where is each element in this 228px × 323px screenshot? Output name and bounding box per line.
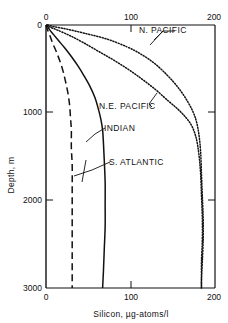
top-xtick-label-200: 200 — [207, 12, 221, 22]
series-line-s-atlantic — [46, 25, 72, 288]
series-label-n-pacific: N. PACIFIC — [139, 25, 187, 35]
chart-svg: 0 100 200 0 100 200 0 1000 2000 3000 Sil… — [0, 0, 228, 323]
left-axis-ticks — [46, 112, 53, 200]
series-line-indian — [47, 25, 105, 288]
ytick-label-1000: 1000 — [23, 107, 42, 117]
series-label-indian: INDIAN — [104, 123, 135, 133]
bottom-xtick-label-0: 0 — [44, 292, 49, 302]
leader-s-atlantic — [92, 162, 110, 170]
leader-indian-tail — [86, 134, 95, 142]
series-label-ne-pacific: N.E. PACIFIC — [99, 101, 156, 111]
top-xtick-label-100: 100 — [124, 12, 138, 22]
series-label-s-atlantic: S. ATLANTIC — [109, 157, 164, 167]
top-xtick-label-0: 0 — [44, 12, 49, 22]
leader-s-atlantic-cross — [82, 160, 86, 182]
ytick-label-2000: 2000 — [23, 195, 42, 205]
bottom-xtick-label-200: 200 — [207, 292, 221, 302]
ytick-label-3000: 3000 — [23, 283, 42, 293]
y-axis-title: Depth, m — [6, 157, 16, 194]
silicon-depth-profile-figure: 0 100 200 0 100 200 0 1000 2000 3000 Sil… — [0, 0, 228, 323]
right-axis-ticks — [208, 112, 215, 200]
bottom-xtick-label-100: 100 — [124, 292, 138, 302]
x-axis-title: Silicon, µg-atoms/l — [93, 309, 168, 319]
ytick-label-0: 0 — [37, 20, 42, 30]
